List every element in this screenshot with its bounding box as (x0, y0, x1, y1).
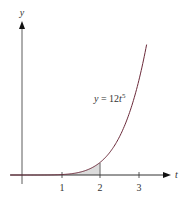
y-axis-arrow-icon (19, 21, 25, 29)
chart: 1 2 3 t y y = 12t5 (0, 0, 184, 204)
curve-12t5 (10, 45, 146, 175)
y-axis-label: y (19, 7, 25, 18)
tick-label-2: 2 (98, 182, 103, 193)
curve-annotation: y = 12t5 (93, 92, 126, 104)
x-axis-arrow-icon (163, 172, 171, 178)
tick-label-1: 1 (60, 182, 65, 193)
shaded-area (61, 163, 100, 175)
x-axis-label: t (175, 169, 178, 180)
tick-label-3: 3 (137, 182, 142, 193)
